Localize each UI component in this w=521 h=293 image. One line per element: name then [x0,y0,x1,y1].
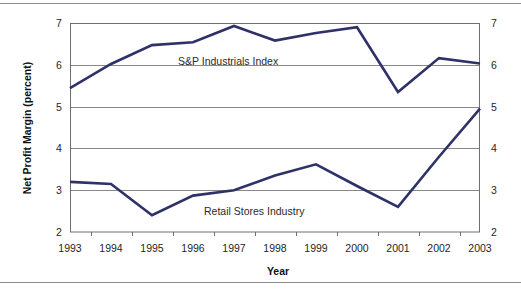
x-tick-label: 2003 [468,242,492,254]
y-tick-label-right: 2 [491,226,497,238]
x-axis-title: Year [267,265,289,277]
y-tick-label-left: 2 [56,226,62,238]
y-axis-title: Net Profit Margin (percent) [21,62,33,194]
x-tick-label: 2001 [386,242,410,254]
x-axis-tick-labels: 1993199419951996199719981999200020012002… [58,242,492,254]
y-tick-label-left: 3 [56,184,62,196]
x-tick-label: 2002 [427,242,451,254]
gridlines-group [70,66,480,191]
x-tick-label: 1998 [263,242,287,254]
x-tick-label: 1994 [99,242,123,254]
x-tick-label: 2000 [345,242,369,254]
x-tick-label: 1993 [58,242,82,254]
y-tick-label-right: 3 [491,184,497,196]
y-tick-label-right: 4 [491,142,497,154]
y-tick-label-right: 6 [491,59,497,71]
x-tick-label: 1997 [222,242,246,254]
line-chart: 234567 234567 19931994199519961997199819… [0,0,521,293]
y-tick-label-left: 5 [56,101,62,113]
x-tick-label: 1995 [140,242,164,254]
chart-figure: 234567 234567 19931994199519961997199819… [0,0,521,293]
series-inline-labels: S&P Industrials IndexRetail Stores Indus… [178,55,305,217]
y-tick-label-left: 6 [56,59,62,71]
y-tick-label-right: 7 [491,17,497,29]
y-tick-label-right: 5 [491,101,497,113]
y-tick-label-left: 4 [56,142,62,154]
y-tick-label-left: 7 [56,17,62,29]
series-line-2 [70,109,480,216]
series-inline-label: Retail Stores Industry [204,205,305,217]
x-tick-label: 1999 [304,242,328,254]
y-axis-tick-labels-right: 234567 [491,17,497,238]
series-inline-label: S&P Industrials Index [178,55,279,67]
y-axis-tick-labels-left: 234567 [56,17,62,238]
x-tick-label: 1996 [181,242,205,254]
tickmarks-group [92,232,461,236]
